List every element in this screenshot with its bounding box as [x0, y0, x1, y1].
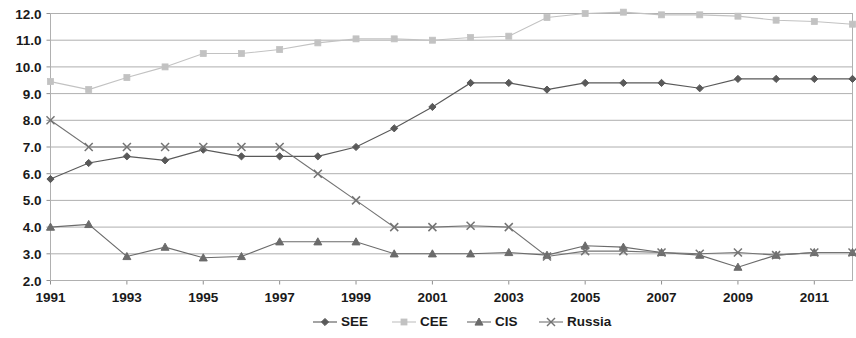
legend-label-see: SEE — [341, 314, 368, 329]
x-axis-tick-label: 2005 — [570, 290, 601, 305]
data-point-see-2008 — [696, 85, 703, 92]
data-point-cee-1998 — [315, 40, 321, 46]
y-axis-tick-label: 7.0 — [23, 140, 42, 155]
x-axis-tick-label: 2007 — [647, 290, 677, 305]
data-point-cee-1994 — [162, 64, 168, 70]
y-axis-tick-label: 3.0 — [23, 247, 42, 262]
data-point-see-2000 — [391, 125, 398, 132]
x-axis-tick-label: 1995 — [188, 290, 219, 305]
legend-marker-see — [321, 318, 328, 325]
line-chart: 2.03.04.05.06.07.08.09.010.011.012.0 199… — [0, 0, 856, 338]
data-point-cee-1997 — [277, 47, 283, 53]
data-point-cee-1992 — [86, 87, 92, 93]
data-point-cee-1991 — [48, 79, 54, 85]
data-point-cee-2007 — [659, 12, 665, 18]
data-point-cis-1992 — [85, 220, 93, 227]
y-axis-tick-label: 8.0 — [23, 113, 42, 128]
axis-ticks — [47, 14, 815, 285]
data-point-cee-2011 — [811, 19, 817, 25]
data-point-see-2003 — [505, 79, 512, 86]
y-axis-tick-label: 12.0 — [15, 7, 41, 22]
data-point-cee-2002 — [468, 35, 474, 41]
data-point-cee-2000 — [391, 36, 397, 42]
legend-item-cee[interactable]: CEE — [392, 314, 448, 329]
data-point-see-2001 — [429, 103, 436, 110]
legend-label-cee: CEE — [420, 314, 448, 329]
chart-container: 2.03.04.05.06.07.08.09.010.011.012.0 199… — [0, 0, 856, 338]
data-point-see-2010 — [773, 75, 780, 82]
data-point-see-1991 — [47, 175, 54, 182]
y-axis-tick-label: 6.0 — [23, 167, 42, 182]
data-point-cee-1996 — [238, 51, 244, 57]
data-point-cee-2001 — [429, 37, 435, 43]
data-point-see-2005 — [582, 79, 589, 86]
data-point-cee-1993 — [124, 75, 130, 81]
series-line-cee — [51, 12, 853, 89]
data-series — [47, 9, 856, 270]
y-axis-tick-label: 2.0 — [23, 274, 42, 289]
x-axis-tick-label: 1997 — [265, 290, 295, 305]
data-point-see-2011 — [811, 75, 818, 82]
legend-label-russia: Russia — [567, 314, 612, 329]
data-point-see-1998 — [314, 153, 321, 160]
data-point-cee-2005 — [582, 11, 588, 17]
data-point-cee-2004 — [544, 15, 550, 21]
x-axis-tick-label: 1991 — [35, 290, 66, 305]
data-point-see-1993 — [123, 153, 130, 160]
data-point-see-1992 — [85, 159, 92, 166]
x-axis-tick-label: 2001 — [417, 290, 448, 305]
series-cis — [47, 220, 856, 270]
x-axis-tick-label: 2011 — [800, 290, 830, 305]
data-point-cee-1999 — [353, 36, 359, 42]
data-point-cee-2008 — [697, 12, 703, 18]
series-line-russia — [51, 120, 853, 256]
x-axis-tick-label: 2009 — [723, 290, 753, 305]
data-point-see-1996 — [238, 153, 245, 160]
x-axis-tick-label: 1993 — [112, 290, 143, 305]
data-point-cee-2006 — [620, 9, 626, 15]
legend-item-cis[interactable]: CIS — [467, 314, 518, 329]
y-axis-labels: 2.03.04.05.06.07.08.09.010.011.012.0 — [15, 7, 41, 289]
y-axis-tick-label: 4.0 — [23, 220, 42, 235]
y-axis-tick-label: 5.0 — [23, 193, 42, 208]
chart-legend: SEECEECISRussia — [313, 314, 612, 329]
legend-label-cis: CIS — [495, 314, 518, 329]
data-point-see-1999 — [352, 143, 359, 150]
data-point-see-1994 — [161, 157, 168, 164]
data-point-see-1997 — [276, 153, 283, 160]
data-point-cee-2003 — [506, 33, 512, 39]
data-point-cis-1994 — [161, 243, 169, 250]
series-russia — [47, 116, 856, 260]
legend-item-russia[interactable]: Russia — [539, 314, 612, 329]
data-point-see-2004 — [543, 86, 550, 93]
data-point-cee-2010 — [773, 17, 779, 23]
data-point-see-2007 — [658, 79, 665, 86]
y-axis-tick-label: 10.0 — [15, 60, 41, 75]
legend-marker-cee — [401, 319, 407, 325]
series-see — [47, 75, 856, 182]
data-point-see-2012 — [849, 75, 856, 82]
x-axis-labels: 1991199319951997199920012003200520072009… — [35, 290, 829, 305]
data-point-see-2009 — [734, 75, 741, 82]
data-point-cee-1995 — [200, 51, 206, 57]
x-axis-tick-label: 2003 — [494, 290, 525, 305]
data-point-see-2002 — [467, 79, 474, 86]
legend-item-see[interactable]: SEE — [313, 314, 368, 329]
data-point-see-2006 — [620, 79, 627, 86]
series-line-cis — [51, 224, 853, 267]
data-point-cee-2009 — [735, 13, 741, 19]
data-point-cee-2012 — [850, 21, 856, 27]
y-axis-tick-label: 11.0 — [16, 33, 42, 48]
x-axis-tick-label: 1999 — [341, 290, 371, 305]
y-axis-tick-label: 9.0 — [23, 87, 42, 102]
